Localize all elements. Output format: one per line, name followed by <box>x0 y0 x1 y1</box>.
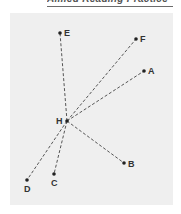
point-dot <box>134 37 138 41</box>
point-label: F <box>140 34 146 44</box>
point-d: D <box>24 178 31 194</box>
points: HEFABCD <box>24 28 155 194</box>
point-dot <box>65 119 69 123</box>
point-b: B <box>122 159 135 169</box>
ray-diagram: HEFABCD <box>0 0 181 214</box>
point-label: A <box>148 66 155 76</box>
segment-h-a <box>67 71 144 121</box>
point-a: A <box>142 66 155 76</box>
point-dot <box>52 172 56 176</box>
point-label: E <box>64 28 70 38</box>
segment-h-d <box>27 121 67 180</box>
point-label: D <box>24 184 31 194</box>
segment-h-f <box>67 39 136 121</box>
point-label: C <box>51 178 58 188</box>
segment-h-c <box>54 121 67 174</box>
point-dot <box>142 69 146 73</box>
point-label: B <box>128 159 135 169</box>
point-h: H <box>56 116 69 126</box>
dashed-segments <box>27 33 144 180</box>
point-c: C <box>51 172 58 188</box>
point-dot <box>58 31 62 35</box>
point-e: E <box>58 28 70 38</box>
point-dot <box>25 178 29 182</box>
point-label: H <box>56 116 63 126</box>
segment-h-b <box>67 121 124 163</box>
point-dot <box>122 161 126 165</box>
segment-h-e <box>60 33 67 121</box>
point-f: F <box>134 34 146 44</box>
